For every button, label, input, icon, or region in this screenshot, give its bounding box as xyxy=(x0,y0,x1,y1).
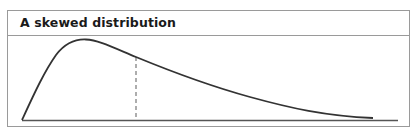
distribution-plot xyxy=(0,0,420,131)
skewed-distribution-curve xyxy=(22,39,373,120)
